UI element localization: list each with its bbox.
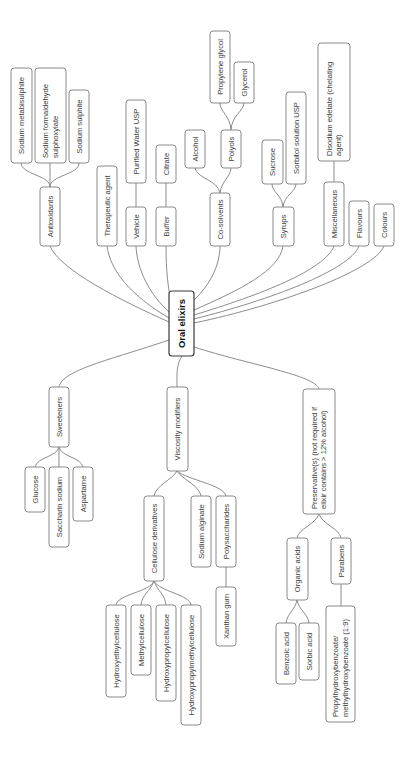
connector-line xyxy=(319,514,341,538)
connector-line xyxy=(21,163,50,187)
node-label: Miscellaneous xyxy=(330,190,339,238)
node-saccharin-sodium: Saccharin sodium xyxy=(49,467,69,547)
node-label: Hydroxypropylmethylcellulose xyxy=(187,615,196,715)
concept-nodes: Oral elixirsAntioxidantsSodium metabisul… xyxy=(11,31,394,725)
node-label: Methylcellulose xyxy=(137,614,146,666)
node-label: Syrups xyxy=(279,214,288,238)
node-purified-water: Purified Water USP xyxy=(126,100,146,183)
node-label: Sorbic acid xyxy=(305,633,314,671)
node-label: Sweeteners xyxy=(55,397,64,437)
node-methylcellulose: Methylcellulose xyxy=(131,605,151,675)
connector-line xyxy=(177,471,201,496)
node-propylene-glycol: Propylene glycol xyxy=(210,31,230,103)
mind-map-canvas: Oral elixirsAntioxidantsSodium metabisul… xyxy=(0,0,414,768)
connector-line xyxy=(154,581,191,605)
node-label: Hydroxyethylcellulose xyxy=(112,614,121,687)
connector-line xyxy=(154,581,166,605)
node-label: Therapeutic agent xyxy=(103,175,112,237)
node-sodium-formaldehyde: Sodium formaldehydesulphoxylate xyxy=(35,68,66,163)
node-label: Glycerol xyxy=(240,68,249,96)
node-label: Propylene glycol xyxy=(216,39,225,95)
node-label: Sorbitol solution USP xyxy=(292,102,301,174)
node-preservatives: Preservative(s) (not required ifelixir c… xyxy=(303,389,335,514)
node-vehicle: Vehicle xyxy=(126,207,146,246)
node-glycerol: Glycerol xyxy=(234,62,254,103)
connector-line xyxy=(154,471,177,496)
node-label: Parabens xyxy=(337,545,346,578)
node-sorbic-acid: Sorbic acid xyxy=(299,623,319,680)
connector-line xyxy=(220,168,231,193)
connector-line xyxy=(286,600,297,623)
connector-line xyxy=(220,103,231,130)
node-label: Polyols xyxy=(227,137,236,162)
connector-line xyxy=(116,581,154,605)
connector-line xyxy=(283,184,296,207)
node-label: Colours xyxy=(380,212,389,238)
node-glucose: Glucose xyxy=(25,467,45,512)
node-label: Vehicle xyxy=(132,214,141,239)
connector-line xyxy=(297,514,319,538)
node-therapeutic-agent: Therapeutic agent xyxy=(97,166,117,246)
node-antioxidants: Antioxidants xyxy=(40,187,60,246)
node-hydroxyethylcellulose: Hydroxyethylcellulose xyxy=(106,605,126,697)
node-label: Sodium sulphite xyxy=(75,99,84,153)
node-flavours: Flavours xyxy=(349,201,369,246)
node-sodium-sulphite: Sodium sulphite xyxy=(69,90,89,163)
node-xanthan-gum: Xanthan gum xyxy=(216,587,236,646)
node-label: Aspartame xyxy=(79,476,88,513)
node-polyols: Polyols xyxy=(221,130,241,168)
node-label: Antioxidants xyxy=(46,196,55,238)
node-label: Alcohol xyxy=(191,136,200,161)
node-label: Glucose xyxy=(31,476,40,504)
node-miscellaneous: Miscellaneous xyxy=(324,182,344,246)
node-syrups: Syrups xyxy=(273,207,294,246)
connector-line xyxy=(177,356,182,387)
node-aspartame: Aspartame xyxy=(73,467,93,521)
node-label: Citrate xyxy=(162,153,171,175)
node-polysaccharides: Polysaccharides xyxy=(216,496,236,567)
node-sorbitol: Sorbitol solution USP xyxy=(286,92,306,184)
connector-line xyxy=(272,184,283,207)
connector-line xyxy=(141,581,154,605)
node-parabens: Parabens xyxy=(331,538,351,584)
node-sodium-metabisulphite: Sodium metabisulphite xyxy=(11,68,32,163)
connector-line xyxy=(136,246,170,313)
node-label: Organic acids xyxy=(293,546,302,593)
node-label: Viscosity modifiers xyxy=(173,397,182,460)
node-citrate: Citrate xyxy=(156,145,176,183)
node-alcohol: Alcohol xyxy=(185,130,205,168)
connector-line xyxy=(194,246,334,315)
node-label: Xanthan gum xyxy=(222,594,231,639)
node-label: Sodium alginate xyxy=(197,504,206,558)
node-label: Hydroxypropylcellulose xyxy=(162,614,171,692)
node-co-solvents: Co-solvents xyxy=(210,193,230,246)
node-label: Benzoic acid xyxy=(282,632,291,675)
node-label: Polysaccharides xyxy=(222,504,231,559)
connector-line xyxy=(297,600,309,623)
connector-line xyxy=(194,246,220,300)
node-label: Buffer xyxy=(162,216,171,237)
node-label: Preservative(s) (not required ifelixir c… xyxy=(310,406,329,509)
connector-line xyxy=(194,347,319,389)
root-node: Oral elixirs xyxy=(169,291,194,356)
connector-line xyxy=(35,447,59,467)
connector-line xyxy=(177,471,226,496)
connector-line xyxy=(59,447,83,467)
node-benzoic-acid: Benzoic acid xyxy=(276,623,296,684)
node-sweeteners: Sweeteners xyxy=(49,387,69,447)
node-label: Co-solvents xyxy=(216,199,225,239)
node-label: Saccharin sodium xyxy=(55,477,64,537)
node-label: Flavours xyxy=(355,209,364,238)
connector-line xyxy=(50,163,79,187)
node-label: Sodium metabisulphite xyxy=(17,77,26,154)
mind-map-svg: Oral elixirsAntioxidantsSodium metabisul… xyxy=(0,0,414,768)
node-sodium-alginate: Sodium alginate xyxy=(191,496,211,567)
node-viscosity-modifiers: Viscosity modifiers xyxy=(167,387,188,471)
node-label: Cellulose derivatives xyxy=(150,503,159,573)
node-label: Oral elixirs xyxy=(176,299,187,348)
node-hydroxypropylmethylcellulose: Hydroxypropylmethylcellulose xyxy=(181,605,201,725)
node-cellulose-derivatives: Cellulose derivatives xyxy=(144,496,164,581)
node-hydroxypropylcellulose: Hydroxypropylcellulose xyxy=(156,605,176,701)
node-organic-acids: Organic acids xyxy=(287,538,308,600)
node-colours: Colours xyxy=(374,204,394,246)
